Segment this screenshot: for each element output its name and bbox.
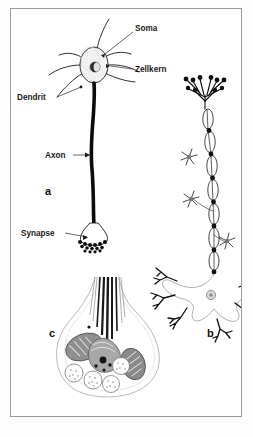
panel-label-b: b — [207, 327, 214, 339]
label-axon: Axon — [45, 151, 65, 160]
panel-b-soma-outline — [162, 274, 242, 321]
panel-b-group: b — [151, 75, 242, 342]
arrow-axon — [85, 153, 90, 158]
axon-terminal-branches — [187, 79, 223, 109]
dendrite-left — [49, 65, 81, 75]
neuron-figure-svg: Soma Zellkern Dendrit Axon Synapse a — [11, 9, 242, 417]
leader-soma — [105, 32, 133, 54]
panel-c-group: c — [49, 277, 159, 397]
panel-label-c: c — [49, 327, 55, 339]
label-zellkern: Zellkern — [135, 65, 166, 74]
label-soma: Soma — [135, 24, 158, 33]
dendrite-lower-right — [105, 73, 135, 82]
panel-a-group: Soma Zellkern Dendrit Axon Synapse a — [17, 19, 166, 253]
label-synapse: Synapse — [21, 229, 55, 238]
bouton-marker-dot — [87, 325, 90, 328]
panel-label-a: a — [45, 185, 52, 197]
figure-frame: Soma Zellkern Dendrit Axon Synapse a — [10, 8, 242, 417]
dendrite-upper-right — [105, 52, 131, 57]
label-dendrit: Dendrit — [17, 93, 46, 102]
panel-b-soma-group — [151, 268, 242, 342]
dendrite-upper-left — [59, 53, 83, 58]
myelin-sheath-segments — [203, 109, 219, 271]
arrow-dendrit — [80, 86, 83, 89]
dendrite-lower-left — [57, 73, 83, 97]
panel-b-nucleolus — [209, 293, 212, 296]
axon-shaft — [91, 83, 94, 225]
dendrite-apical — [97, 19, 109, 49]
